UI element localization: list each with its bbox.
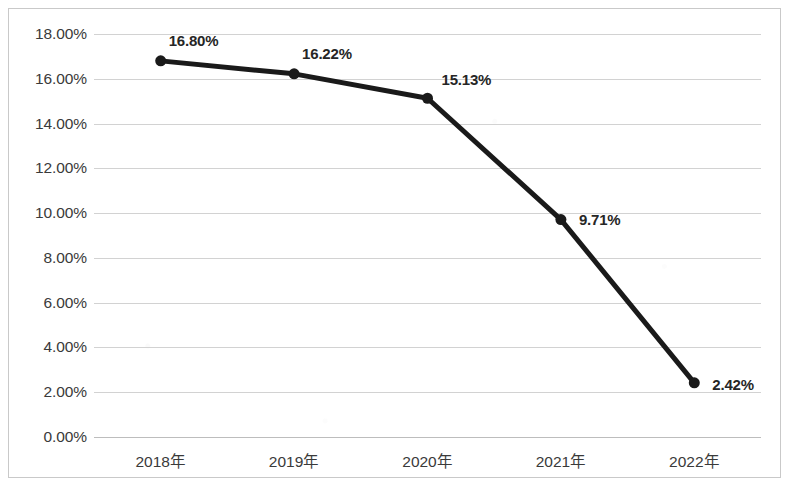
y-tick-label: 16.00% [9, 70, 87, 88]
y-tick-label: 10.00% [9, 204, 87, 222]
x-tick-label-4: 2022年 [669, 449, 719, 471]
data-label-1: 16.22% [302, 45, 352, 62]
data-label-0: 16.80% [169, 32, 219, 49]
data-label-3: 9.71% [579, 211, 621, 228]
data-point-marker-1 [289, 68, 300, 79]
data-point-marker-2 [422, 93, 433, 104]
x-axis-labels: 2018年2019年2020年2021年2022年 [94, 449, 761, 478]
y-tick-label: 4.00% [9, 338, 87, 356]
y-tick-label: 6.00% [9, 294, 87, 312]
y-tick-label: 2.00% [9, 383, 87, 401]
data-point-marker-0 [155, 55, 166, 66]
data-point-marker-4 [689, 377, 700, 388]
data-label-4: 2.42% [712, 376, 754, 393]
x-tick-label-0: 2018年 [135, 449, 185, 471]
data-label-2: 15.13% [442, 71, 492, 88]
x-tick-label-2: 2020年 [402, 449, 452, 471]
chart-frame: 18.00%16.00%14.00%12.00%10.00%8.00%6.00%… [8, 8, 781, 478]
data-point-marker-3 [555, 214, 566, 225]
y-axis-labels: 18.00%16.00%14.00%12.00%10.00%8.00%6.00%… [9, 34, 87, 437]
plot-area: 16.80%16.22%15.13%9.71%2.42% [94, 34, 761, 437]
y-tick-label: 14.00% [9, 115, 87, 133]
x-tick-label-3: 2021年 [536, 449, 586, 471]
y-tick-label: 8.00% [9, 249, 87, 267]
y-tick-label: 0.00% [9, 428, 87, 446]
line-series [94, 34, 761, 437]
y-tick-label: 18.00% [9, 25, 87, 43]
y-tick-label: 12.00% [9, 159, 87, 177]
x-tick-label-1: 2019年 [269, 449, 319, 471]
axis-line-zero [94, 437, 761, 438]
